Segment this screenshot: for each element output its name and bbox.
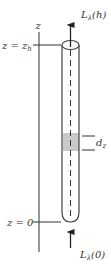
top-radiance-label: Lλ(h) bbox=[80, 9, 106, 22]
z-axis-label: z bbox=[35, 20, 42, 31]
cylinder-column bbox=[62, 41, 79, 223]
bottom-radiance-label: Lλ(0) bbox=[79, 249, 105, 262]
z-axis: z bbox=[35, 20, 42, 252]
tick-z-0: z = 0 bbox=[6, 217, 61, 228]
dz-label: dz bbox=[96, 137, 106, 150]
tick-z-0-label: z = 0 bbox=[6, 217, 34, 228]
tick-z-h-label: z = zh bbox=[1, 40, 32, 53]
radiance-column-diagram: z z = zh z = 0 Lλ(h) Lλ(0) bbox=[0, 0, 111, 270]
dz-marker: dz bbox=[82, 136, 106, 150]
bottom-radiance-arrow: Lλ(0) bbox=[71, 232, 106, 262]
tick-z-h: z = zh bbox=[1, 40, 61, 53]
